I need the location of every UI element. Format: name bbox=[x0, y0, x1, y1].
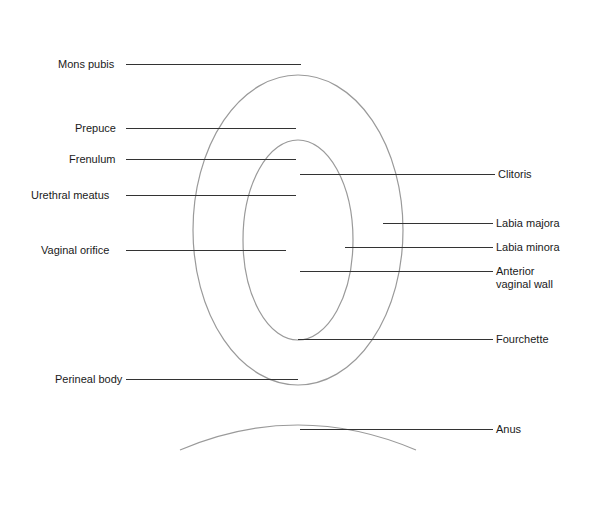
label-anus: Anus bbox=[496, 423, 521, 436]
label-labia-majora: Labia majora bbox=[496, 217, 560, 230]
leader-anus bbox=[300, 429, 493, 430]
leader-fourchette bbox=[298, 339, 493, 340]
label-vaginal-orifice: Vaginal orifice bbox=[41, 244, 109, 257]
leader-mons-pubis bbox=[126, 64, 301, 65]
leader-urethral-meatus bbox=[126, 195, 296, 196]
leader-perineal-body bbox=[126, 379, 298, 380]
leader-labia-minora bbox=[345, 247, 493, 248]
label-prepuce: Prepuce bbox=[75, 122, 116, 135]
leader-labia-majora bbox=[383, 223, 493, 224]
label-mons-pubis: Mons pubis bbox=[58, 58, 114, 71]
label-frenulum: Frenulum bbox=[69, 153, 115, 166]
leader-prepuce bbox=[126, 128, 296, 129]
label-clitoris: Clitoris bbox=[498, 168, 532, 181]
leader-vaginal-orifice bbox=[126, 250, 286, 251]
label-anterior-line2: vaginal wall bbox=[496, 278, 553, 291]
label-anterior-vaginal-wall: Anterior vaginal wall bbox=[496, 265, 553, 291]
leader-frenulum bbox=[126, 159, 296, 160]
diagram-canvas: Mons pubis Prepuce Frenulum Urethral mea… bbox=[0, 0, 596, 525]
anatomy-figure bbox=[0, 0, 596, 525]
leader-anterior-vaginal-wall bbox=[300, 271, 493, 272]
label-perineal-body: Perineal body bbox=[55, 373, 122, 386]
label-fourchette: Fourchette bbox=[496, 333, 549, 346]
label-anterior-line1: Anterior bbox=[496, 265, 553, 278]
label-urethral-meatus: Urethral meatus bbox=[31, 189, 109, 202]
leader-clitoris bbox=[300, 174, 495, 175]
label-labia-minora: Labia minora bbox=[496, 241, 560, 254]
